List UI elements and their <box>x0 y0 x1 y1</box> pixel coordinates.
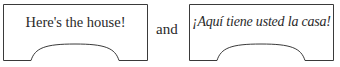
sign-text-english: Here's the house! <box>3 14 148 31</box>
sign-text-spanish: ¡Aquí tiene usted la casa! <box>189 14 334 30</box>
sign-spanish: ¡Aquí tiene usted la casa! <box>189 4 334 61</box>
sign-outline-icon <box>189 4 334 61</box>
connector-word: and <box>156 21 178 38</box>
sign-english: Here's the house! <box>3 4 148 61</box>
sign-outline-icon <box>3 4 148 61</box>
